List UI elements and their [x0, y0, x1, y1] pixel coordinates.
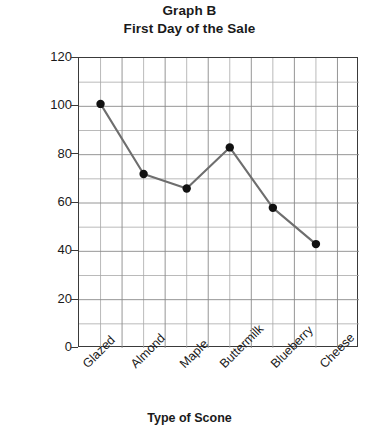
x-axis-title: Type of Scone [0, 411, 379, 425]
x-tick-label: Maple [177, 337, 211, 371]
x-tick-label: Buttermilk [217, 322, 266, 371]
x-tick-label: Glazed [80, 333, 118, 371]
x-axis-tick-labels: Glazed Almond Maple Buttermilk Blueberry… [0, 0, 379, 436]
chart-page: Graph B First Day of the Sale Number of … [0, 0, 379, 436]
x-tick-label: Blueberry [268, 323, 316, 371]
x-tick-label: Cheese [317, 331, 357, 371]
x-tick-label: Almond [128, 331, 168, 371]
